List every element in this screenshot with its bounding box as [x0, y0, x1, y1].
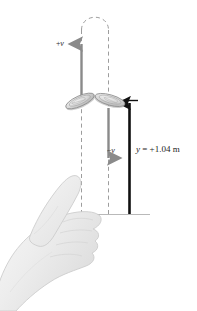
coin-falling	[93, 91, 126, 111]
velocity-up-label: +v	[56, 40, 64, 48]
dashed-trajectory-arc	[82, 17, 109, 214]
height-label: y = +1.04 m	[136, 145, 180, 154]
physics-diagram: +v −v y = +1.04 m	[0, 0, 197, 311]
dashed-arc-apex	[82, 17, 109, 30]
diagram-canvas	[0, 0, 197, 311]
velocity-down-label: −v	[107, 147, 115, 155]
hand	[0, 176, 101, 311]
